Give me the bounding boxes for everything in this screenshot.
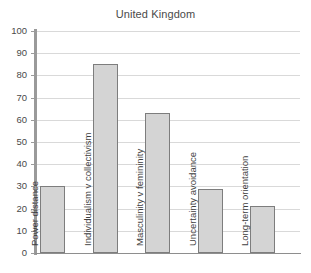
plot-area: Power distanceIndividualism v collectivi… [37, 31, 300, 253]
bar-label: Uncertainty avoidance [187, 152, 199, 248]
y-tick-label: 80 [0, 70, 27, 80]
y-tick-label: 20 [0, 204, 27, 214]
y-tick-mark [31, 31, 35, 32]
y-tick-label: 0 [0, 248, 27, 258]
gridline [37, 75, 300, 76]
y-tick-label: 40 [0, 159, 27, 169]
y-tick-label: 100 [0, 26, 27, 36]
bar-label: Individualism v collectivism [82, 132, 94, 248]
x-axis-line [34, 253, 301, 254]
y-tick-mark [31, 164, 35, 165]
y-tick-mark [31, 75, 35, 76]
y-tick-mark [31, 253, 35, 254]
bar[interactable]: Long-term orientation [250, 206, 275, 253]
y-tick-mark [31, 142, 35, 143]
y-tick-label: 50 [0, 137, 27, 147]
bar[interactable]: Individualism v collectivism [93, 64, 118, 253]
bar-label: Power distance [29, 181, 41, 248]
y-tick-label: 70 [0, 93, 27, 103]
y-tick-label: 60 [0, 115, 27, 125]
y-tick-label: 30 [0, 181, 27, 191]
y-tick-label: 10 [0, 226, 27, 236]
bar[interactable]: Uncertainty avoidance [198, 189, 223, 253]
y-tick-mark [31, 53, 35, 54]
y-tick-label: 90 [0, 48, 27, 58]
bar-label: Long-term orientation [239, 156, 251, 248]
bar[interactable]: Power distance [40, 186, 65, 253]
y-tick-mark [31, 120, 35, 121]
gridline [37, 53, 300, 54]
bar-label: Masculinity v femininity [134, 149, 146, 248]
y-tick-mark [31, 98, 35, 99]
bar-chart: United Kingdom 1009080706050403020100 Po… [0, 0, 311, 273]
chart-title: United Kingdom [0, 8, 311, 20]
gridline [37, 31, 300, 32]
bar[interactable]: Masculinity v femininity [145, 113, 170, 253]
gridline [37, 98, 300, 99]
